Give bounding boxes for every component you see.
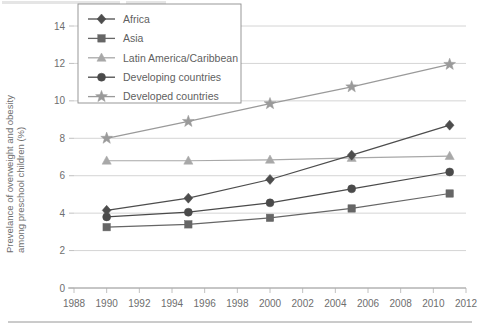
- legend-item-label: Latin America/Caribbean: [123, 52, 238, 64]
- x-tick-label-1998: 1998: [226, 298, 249, 309]
- x-tick-label-1990: 1990: [96, 298, 119, 309]
- line-chart: 02468101214 1988199019921994199619982000…: [0, 0, 479, 331]
- x-tick-label-2004: 2004: [324, 298, 347, 309]
- y-tick-label-6: 6: [59, 170, 65, 181]
- y-tick-label-4: 4: [59, 208, 65, 219]
- circle-marker: [348, 185, 356, 193]
- series-line: [107, 172, 450, 217]
- y-tick-label-8: 8: [59, 133, 65, 144]
- x-tick-label-2006: 2006: [357, 298, 380, 309]
- square-marker: [446, 190, 453, 197]
- x-axis: 1988199019921994199619982000200220042006…: [63, 288, 478, 309]
- legend-item-label: Developing countries: [123, 71, 221, 83]
- star-marker: [101, 132, 113, 143]
- legend-item-label: Developed countries: [123, 90, 219, 102]
- x-tick-label-2008: 2008: [390, 298, 413, 309]
- x-tick-label-2002: 2002: [292, 298, 315, 309]
- y-tick-label-10: 10: [54, 95, 66, 106]
- square-marker: [185, 221, 192, 228]
- x-tick-label-1996: 1996: [194, 298, 217, 309]
- legend-item-label: Africa: [123, 13, 150, 25]
- circle-marker: [184, 208, 192, 216]
- y-tick-label-12: 12: [54, 58, 66, 69]
- series-latin-america-caribbean: [102, 151, 454, 164]
- circle-marker: [98, 73, 106, 81]
- star-marker: [264, 97, 276, 108]
- circle-marker: [266, 199, 274, 207]
- y-tick-label-14: 14: [54, 21, 66, 32]
- diamond-marker: [102, 205, 111, 215]
- chart-legend: AfricaAsiaLatin America/CaribbeanDevelop…: [78, 4, 241, 103]
- x-tick-label-1992: 1992: [128, 298, 151, 309]
- y-axis-title-line1: Prevelance of overweight and obesity: [4, 95, 15, 253]
- y-tick-label-2: 2: [59, 245, 65, 256]
- circle-marker: [446, 168, 454, 176]
- legend-item-label: Asia: [123, 32, 144, 44]
- chart-figure: 02468101214 1988199019921994199619982000…: [0, 0, 479, 331]
- y-axis-title: Prevelance of overweight and obesity amo…: [4, 95, 26, 253]
- square-marker: [103, 223, 110, 230]
- x-tick-label-2000: 2000: [259, 298, 282, 309]
- triangle-marker: [102, 156, 111, 164]
- x-tick-label-1994: 1994: [161, 298, 184, 309]
- x-tick-label-2012: 2012: [455, 298, 478, 309]
- series-line: [107, 193, 450, 227]
- y-axis-title-line2: among preschool children (%): [15, 127, 26, 253]
- star-marker: [444, 58, 456, 69]
- triangle-marker: [184, 156, 193, 164]
- x-tick-label-2010: 2010: [422, 298, 445, 309]
- diamond-marker: [184, 193, 193, 203]
- square-marker: [348, 205, 355, 212]
- triangle-marker: [265, 155, 274, 163]
- y-tick-label-0: 0: [59, 283, 65, 294]
- star-marker: [346, 81, 358, 92]
- x-tick-label-1988: 1988: [63, 298, 86, 309]
- square-marker: [98, 35, 105, 42]
- diamond-marker: [445, 120, 454, 130]
- square-marker: [266, 214, 273, 221]
- y-axis: 02468101214: [54, 21, 74, 294]
- triangle-marker: [445, 151, 454, 159]
- star-marker: [182, 115, 194, 126]
- series-line: [107, 156, 450, 161]
- series-asia: [103, 190, 453, 231]
